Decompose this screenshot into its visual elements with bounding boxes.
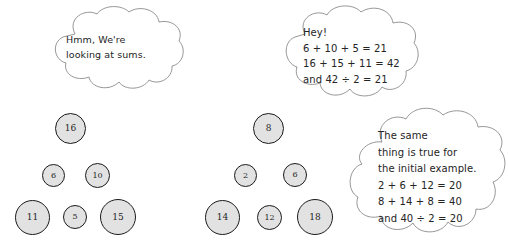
number-circle[interactable]: 6 [283, 163, 307, 187]
number-circle[interactable]: 10 [85, 163, 110, 188]
speech-bubble-hmm-text: Hmm, We're looking at sums. [66, 32, 146, 62]
number-circle[interactable]: 2 [234, 164, 257, 187]
number-circle[interactable]: 6 [42, 164, 65, 187]
speech-bubble-hey: Hey! 6 + 10 + 5 = 21 16 + 15 + 11 = 42 a… [281, 6, 423, 106]
number-circle[interactable]: 16 [55, 113, 86, 144]
speech-bubble-hmm: Hmm, We're looking at sums. [45, 8, 187, 92]
number-circle[interactable]: 11 [15, 200, 50, 235]
number-circle[interactable]: 8 [253, 113, 284, 144]
speech-bubble-same: The same thing is true for the initial e… [354, 108, 508, 242]
number-circle[interactable]: 15 [100, 199, 136, 235]
number-circle[interactable]: 14 [205, 200, 240, 235]
speech-bubble-hey-text: Hey! 6 + 10 + 5 = 21 16 + 15 + 11 = 42 a… [303, 25, 400, 87]
speech-bubble-same-text: The same thing is true for the initial e… [378, 128, 477, 227]
number-circle[interactable]: 18 [297, 199, 333, 235]
diagram-canvas: Hmm, We're looking at sums. Hey! 6 + 10 … [0, 0, 508, 245]
number-circle[interactable]: 5 [63, 205, 87, 229]
number-circle[interactable]: 12 [257, 205, 282, 230]
